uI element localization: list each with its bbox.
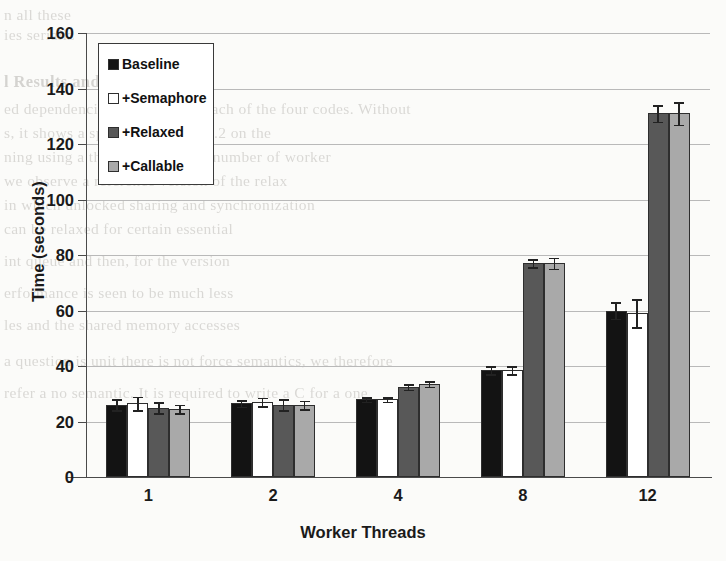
error-bar-cap-lower	[674, 125, 684, 127]
error-bar-cap-upper	[175, 405, 185, 407]
error-bar-cap-lower	[154, 413, 164, 415]
bar	[127, 403, 148, 477]
x-tick-label: 8	[493, 486, 553, 505]
error-bar-cap-lower	[528, 267, 538, 269]
gridline	[86, 33, 710, 34]
error-bar-cap-lower	[549, 269, 559, 271]
bar	[398, 387, 419, 477]
y-tick-mark	[78, 422, 86, 423]
bar	[106, 405, 127, 477]
error-bar	[283, 399, 285, 410]
y-tick-label: 80	[0, 246, 74, 265]
error-bar-cap-upper	[425, 381, 435, 383]
error-bar-cap-lower	[611, 319, 621, 321]
y-tick-label: 160	[0, 24, 74, 43]
y-tick-mark	[78, 477, 86, 478]
error-bar-cap-lower	[279, 410, 289, 412]
bar	[481, 370, 502, 477]
y-tick-mark	[78, 33, 86, 34]
bar	[544, 263, 565, 477]
error-bar	[636, 299, 638, 327]
error-bar-cap-upper	[279, 399, 289, 401]
error-bar-cap-upper	[383, 397, 393, 399]
error-bar-cap-upper	[549, 258, 559, 260]
y-tick-mark	[78, 311, 86, 312]
x-tick-label: 2	[243, 486, 303, 505]
y-tick-label: 40	[0, 357, 74, 376]
x-tick-label: 12	[618, 486, 678, 505]
x-axis-line	[66, 477, 712, 478]
y-axis-line	[86, 33, 87, 478]
error-bar	[158, 402, 160, 413]
error-bar-cap-upper	[133, 397, 143, 399]
error-bar-cap-upper	[486, 366, 496, 368]
legend-swatch-icon	[108, 127, 119, 138]
bar	[648, 113, 669, 477]
bar	[669, 113, 690, 477]
error-bar-cap-upper	[507, 366, 517, 368]
error-bar-cap-lower	[404, 390, 414, 392]
error-bar-cap-lower	[362, 402, 372, 404]
x-axis-title: Worker Threads	[0, 523, 726, 542]
error-bar-cap-lower	[486, 374, 496, 376]
y-tick-label: 140	[0, 79, 74, 98]
error-bar-cap-upper	[112, 399, 122, 401]
legend-label: Baseline	[122, 56, 180, 72]
bar	[148, 408, 169, 477]
bar	[356, 399, 377, 477]
bar	[377, 399, 398, 477]
error-bar-cap-upper	[362, 397, 372, 399]
bar	[252, 402, 273, 477]
error-bar	[657, 105, 659, 122]
bar	[523, 263, 544, 477]
error-bar-cap-lower	[653, 122, 663, 124]
legend-item-relaxed: +Relaxed	[108, 124, 184, 140]
error-bar-cap-upper	[611, 302, 621, 304]
legend-item-semaphore: +Semaphore	[108, 90, 206, 106]
bar	[273, 405, 294, 477]
error-bar-cap-lower	[632, 327, 642, 329]
legend: Baseline +Semaphore +Relaxed +Callable	[98, 43, 214, 185]
error-bar	[554, 258, 556, 269]
legend-label: +Relaxed	[122, 124, 184, 140]
x-tick-label: 4	[368, 486, 428, 505]
y-tick-mark	[78, 89, 86, 90]
error-bar	[615, 302, 617, 319]
legend-label: +Semaphore	[122, 90, 206, 106]
legend-swatch-icon	[108, 161, 119, 172]
gridline	[86, 255, 710, 256]
error-bar-cap-upper	[154, 402, 164, 404]
y-tick-mark	[78, 144, 86, 145]
legend-item-baseline: Baseline	[108, 56, 180, 72]
bar	[294, 405, 315, 477]
error-bar-cap-lower	[425, 387, 435, 389]
error-bar-cap-lower	[112, 410, 122, 412]
error-bar-cap-upper	[528, 259, 538, 261]
error-bar-cap-upper	[653, 105, 663, 107]
bar	[627, 313, 648, 477]
error-bar-cap-lower	[258, 406, 268, 408]
legend-swatch-icon	[108, 93, 119, 104]
error-bar-cap-lower	[507, 374, 517, 376]
error-bar-cap-upper	[632, 299, 642, 301]
bar	[502, 370, 523, 477]
error-bar-cap-upper	[300, 401, 310, 403]
error-bar-cap-upper	[237, 400, 247, 402]
error-bar-cap-upper	[404, 384, 414, 386]
bar-chart: Time (seconds) Worker Threads Baseline +…	[0, 0, 726, 561]
legend-item-callable: +Callable	[108, 158, 184, 174]
y-tick-mark	[78, 200, 86, 201]
bar	[169, 409, 190, 477]
error-bar-cap-lower	[383, 402, 393, 404]
bar	[419, 384, 440, 477]
y-tick-label: 60	[0, 301, 74, 320]
error-bar-cap-lower	[300, 409, 310, 411]
error-bar-cap-lower	[133, 410, 143, 412]
gridline	[86, 200, 710, 201]
bar	[606, 311, 627, 478]
legend-swatch-icon	[108, 59, 119, 70]
error-bar	[678, 102, 680, 124]
error-bar	[137, 397, 139, 411]
error-bar-cap-lower	[175, 413, 185, 415]
error-bar-cap-upper	[258, 398, 268, 400]
